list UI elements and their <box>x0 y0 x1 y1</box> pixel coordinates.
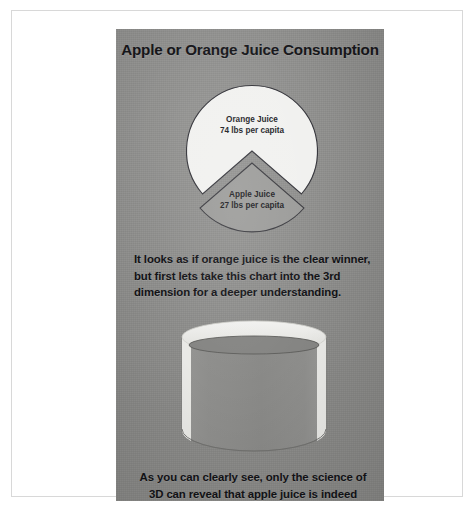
cylinder-left-highlight <box>182 337 191 441</box>
caption-middle: It looks as if orange juice is the clear… <box>134 251 372 301</box>
pie-chart-svg: Orange Juice 74 lbs per capita Apple Jui… <box>162 71 342 243</box>
image-frame: Apple or Orange Juice Consumption Orange… <box>11 10 463 497</box>
pie-chart-3d <box>166 317 342 462</box>
screenshot-root: Apple or Orange Juice Consumption Orange… <box>0 0 476 509</box>
cylinder-right-highlight <box>317 337 326 441</box>
orange-juice-label: Orange Juice <box>226 115 278 124</box>
pie-chart: Orange Juice 74 lbs per capita Apple Jui… <box>162 71 342 243</box>
apple-juice-label: Apple Juice <box>229 190 275 199</box>
caption-bottom: As you can clearly see, only the science… <box>134 469 372 501</box>
cylinder-top-surface-apple-juice <box>189 336 319 354</box>
pie-chart-3d-svg <box>166 317 342 462</box>
orange-juice-value: 74 lbs per capita <box>220 126 285 135</box>
apple-juice-value: 27 lbs per capita <box>220 201 285 210</box>
poster-panel: Apple or Orange Juice Consumption Orange… <box>116 29 384 501</box>
page-title: Apple or Orange Juice Consumption <box>116 41 384 58</box>
